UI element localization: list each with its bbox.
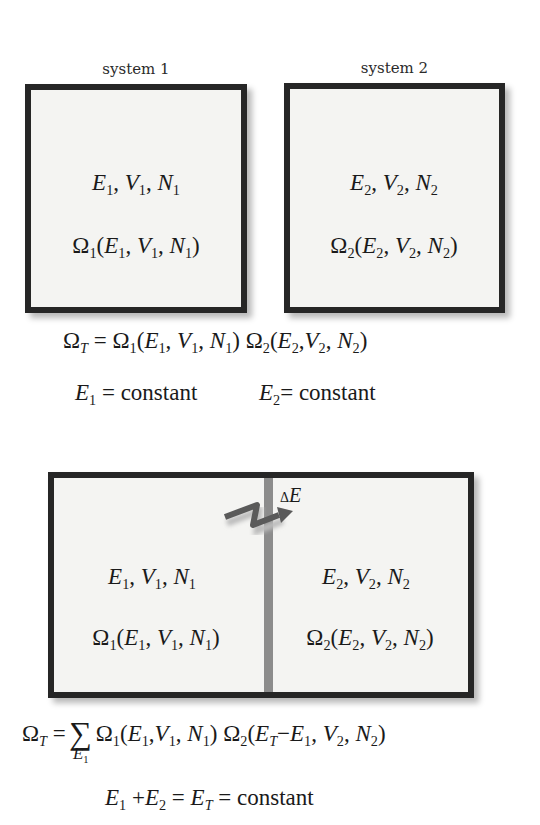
system2-omega: Ω2(E2, V2, N2) (330, 233, 457, 259)
equation-omega-total-product: ΩT = Ω1(E1, V1, N1) Ω2(E2,V2, N2) (63, 328, 367, 354)
delta-e-label: ΔE (280, 484, 301, 507)
system1-state: E1, V1, N1 (92, 170, 180, 196)
system1-omega: Ω1(E1, V1, N1) (72, 233, 199, 259)
system2-state: E2, V2, N2 (350, 170, 438, 196)
constraint-total-energy: E1 +E2 = ET = constant (105, 785, 314, 811)
constraint-e1-constant: E1 = constant (75, 380, 197, 406)
constraint-e2-constant: E2= constant (259, 380, 376, 406)
system2-box (284, 83, 505, 313)
system2-label: system 2 (284, 59, 505, 77)
left-system-omega: Ω1(E1, V1, N1) (92, 625, 219, 651)
left-system-state: E1, V1, N1 (108, 564, 196, 590)
equation-omega-total-sum: ΩT =∑E1Ω1(E1,V1, N1) Ω2(ET−E1, V2, N2) (22, 714, 386, 747)
summation-symbol: ∑E1 (68, 714, 94, 747)
right-system-omega: Ω2(E2, V2, N2) (306, 625, 433, 651)
right-system-state: E2, V2, N2 (322, 564, 410, 590)
system1-label: system 1 (25, 60, 247, 78)
system1-box (25, 84, 247, 313)
